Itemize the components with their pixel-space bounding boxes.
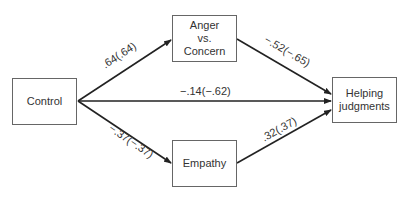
node-anger-line3: Concern xyxy=(184,45,226,58)
node-helping-judgments: Helping judgments xyxy=(332,77,397,123)
node-control: Control xyxy=(12,78,77,125)
node-control-label: Control xyxy=(27,95,62,108)
node-anger-line2: vs. xyxy=(197,32,211,45)
node-helping-line2: judgments xyxy=(339,100,390,113)
node-empathy: Empathy xyxy=(172,140,237,187)
node-anger-line1: Anger xyxy=(190,19,219,32)
node-anger-vs-concern: Anger vs. Concern xyxy=(172,15,237,62)
node-empathy-label: Empathy xyxy=(183,157,226,170)
node-helping-line1: Helping xyxy=(346,87,383,100)
edge-label-control-helping: −.14(−.62) xyxy=(180,85,231,97)
